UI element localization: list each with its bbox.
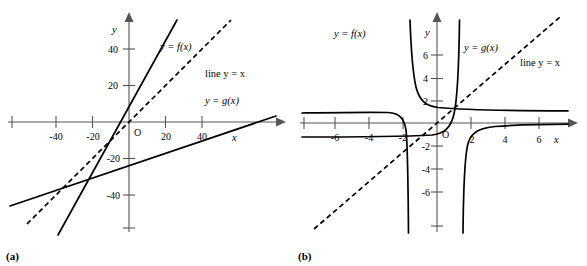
inverse-functions-figure: -40 -20 20 40 40 20 -20 -40 O x y y = f(… bbox=[0, 0, 587, 266]
x-ticklabel-b--4: -4 bbox=[365, 132, 373, 143]
panel-caption-b: (b) bbox=[298, 250, 311, 262]
curve-label-b-f: y = f(x) bbox=[333, 28, 366, 40]
x-ticklabel-a-40: 40 bbox=[197, 131, 207, 142]
x-axis-arrow-b bbox=[568, 119, 578, 128]
x-ticklabel-a--20: -20 bbox=[86, 131, 99, 142]
curve-label-b-g: y = g(x) bbox=[463, 42, 498, 54]
graph-a: -40 -20 20 40 40 20 -20 -40 O x y y = f(… bbox=[0, 0, 295, 240]
panel-caption-a: (a) bbox=[6, 250, 19, 262]
curve-label-a-line: line y = x bbox=[205, 68, 246, 79]
curve-label-a-g: y = g(x) bbox=[204, 95, 239, 107]
curve-a-g bbox=[10, 116, 276, 206]
y-ticklabel-a--20: -20 bbox=[107, 153, 120, 164]
x-ticklabel-a--40: -40 bbox=[49, 131, 62, 142]
graph-b: -6 -4 -2 2 4 6 6 4 2 -2 -4 -6 O x y y = … bbox=[292, 0, 587, 240]
curve-label-b-line: line y = x bbox=[520, 57, 561, 68]
origin-label-b: O bbox=[442, 129, 449, 140]
y-ticklabel-a-20: 20 bbox=[108, 80, 118, 91]
y-ticklabel-b--6: -6 bbox=[422, 187, 430, 198]
curve-b-g-lower-branch bbox=[463, 124, 568, 233]
x-ticklabel-b--6: -6 bbox=[331, 132, 339, 143]
x-ticklabel-b-4: 4 bbox=[503, 134, 508, 145]
x-axis-arrow-a bbox=[276, 118, 286, 127]
curve-label-a-f: y = f(x) bbox=[159, 41, 192, 53]
y-ticklabel-b-4: 4 bbox=[423, 73, 428, 84]
y-axis-label-a: y bbox=[111, 24, 117, 35]
y-ticklabel-b--4: -4 bbox=[422, 164, 430, 175]
x-ticklabel-a-20: 20 bbox=[161, 131, 171, 142]
y-axis-arrow-b bbox=[433, 12, 442, 22]
y-ticklabel-b-6: 6 bbox=[423, 50, 428, 61]
y-ticklabel-a--40: -40 bbox=[107, 190, 120, 201]
curve-b-f-left-branch bbox=[302, 112, 409, 233]
x-ticklabel-b--2: -2 bbox=[399, 132, 407, 143]
x-ticklabel-b-2: 2 bbox=[470, 134, 475, 145]
origin-label-a: O bbox=[134, 127, 141, 138]
x-axis-label-b: x bbox=[553, 134, 559, 145]
y-ticklabel-a-40: 40 bbox=[108, 44, 118, 55]
y-ticklabel-b-2: 2 bbox=[423, 96, 428, 107]
x-axis-label-a: x bbox=[231, 132, 237, 143]
y-axis-arrow-a bbox=[125, 12, 134, 22]
x-ticklabel-b-6: 6 bbox=[537, 134, 542, 145]
y-axis-label-b: y bbox=[424, 27, 430, 38]
y-ticklabel-b--2: -2 bbox=[422, 141, 430, 152]
panel-b: -6 -4 -2 2 4 6 6 4 2 -2 -4 -6 O x y y = … bbox=[292, 0, 587, 266]
panel-a: -40 -20 20 40 40 20 -20 -40 O x y y = f(… bbox=[0, 0, 295, 266]
